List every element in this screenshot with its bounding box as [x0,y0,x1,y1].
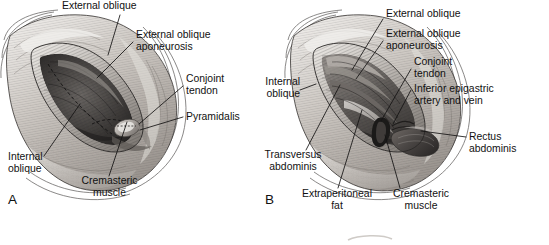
label-b-external-oblique: External oblique [386,8,461,20]
label-b-transversus-abdominis: Transversus abdominis [243,149,343,172]
panel-letter-b: B [265,192,274,207]
label-b-internal-oblique: Internal oblique [236,76,300,99]
label-b-inferior-epigastric-artery-and-vein: Inferior epigastric artery and vein [414,83,494,106]
label-a-pyramidalis: Pyramidalis [186,111,240,123]
figure-inguinal-anatomy: External oblique External oblique aponeu… [0,0,549,245]
label-b-conjoint-tendon: Conjoint tendon [414,56,452,79]
label-a-cremasteric-muscle: Cremasteric muscle [57,175,162,198]
label-a-internal-oblique: Internal oblique [8,151,43,174]
label-b-extraperitoneal-fat: Extraperitoneal fat [287,188,387,211]
label-a-conjoint-tendon: Conjoint tendon [186,73,224,96]
label-b-rectus-abdominis: Rectus abdominis [469,131,516,154]
label-b-cremasteric-muscle: Cremasteric muscle [375,188,467,211]
label-a-external-oblique: External oblique [62,0,137,12]
panel-letter-a: A [8,192,17,207]
label-a-external-oblique-aponeurosis: External oblique aponeurosis [136,29,211,52]
label-b-external-oblique-aponeurosis: External oblique aponeurosis [386,28,461,51]
